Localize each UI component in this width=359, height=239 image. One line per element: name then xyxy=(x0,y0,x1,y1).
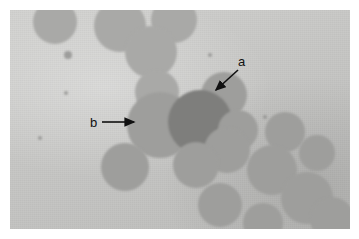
micrograph-plate: ab xyxy=(10,10,350,229)
annotation-label-b: b xyxy=(90,116,97,129)
arrows-group xyxy=(102,70,238,122)
annotation-arrow-layer xyxy=(10,10,350,229)
annotation-arrow-a xyxy=(216,70,238,90)
micrograph-figure: ab xyxy=(0,0,359,239)
annotation-label-a: a xyxy=(238,55,245,68)
